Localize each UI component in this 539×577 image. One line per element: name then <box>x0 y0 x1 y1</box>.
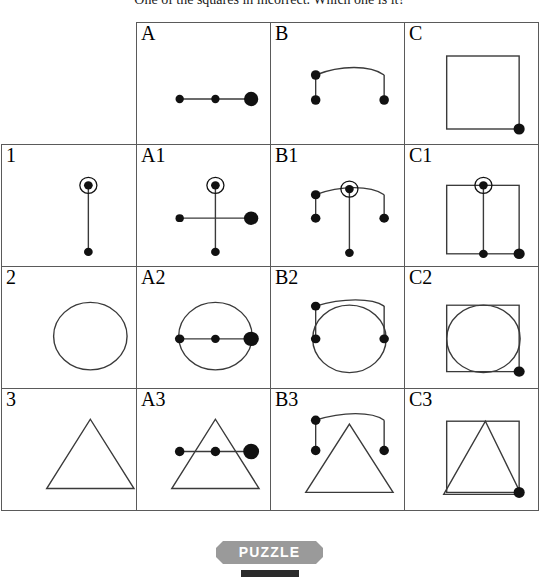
shape-triangle <box>2 389 136 510</box>
shape-triangle-with-arch <box>271 389 404 510</box>
shape-square-with-circle <box>405 267 538 388</box>
grid-cell-B3[interactable]: B3 <box>271 389 405 511</box>
puzzle-question: One of the squares in incorrect. Which o… <box>0 0 539 7</box>
puzzle-badge[interactable]: PUZZLE <box>216 541 323 564</box>
grid-cell-3[interactable]: 3 <box>2 389 137 511</box>
shape-square-with-vertical-stem <box>405 145 538 266</box>
shape-dotted-line-with-vertical-stem <box>137 145 270 266</box>
puzzle-grid: A B <box>1 22 539 511</box>
grid-cell-C2[interactable]: C2 <box>405 267 539 389</box>
grid-cell-A2[interactable]: A2 <box>137 267 271 389</box>
grid-cell-2[interactable]: 2 <box>2 267 137 389</box>
grid-cell-A1[interactable]: A1 <box>137 145 271 267</box>
grid-row-3: 3 A3 B3 <box>2 389 539 511</box>
shape-vertical-stem <box>2 145 136 266</box>
shape-dotted-line <box>137 23 270 144</box>
grid-cell-A3[interactable]: A3 <box>137 389 271 511</box>
shape-triangle-with-dotted-line <box>137 389 270 510</box>
shape-circle-with-arch <box>271 267 404 388</box>
grid-cell-C1[interactable]: C1 <box>405 145 539 267</box>
grid-cell-B1[interactable]: B1 <box>271 145 405 267</box>
shape-arch-with-vertical-stem <box>271 145 404 266</box>
grid-row-header: A B <box>2 23 539 145</box>
shape-square-with-corner-dot <box>405 23 538 144</box>
shape-circle <box>2 267 136 388</box>
shape-square-with-oversized-triangle <box>405 389 538 510</box>
grid-cell-C3[interactable]: C3 <box>405 389 539 511</box>
shape-circle-with-dotted-line <box>137 267 270 388</box>
grid-row-2: 2 A2 B2 <box>2 267 539 389</box>
grid-row-1: 1 A1 <box>2 145 539 267</box>
grid-cell-1[interactable]: 1 <box>2 145 137 267</box>
grid-cell-A[interactable]: A <box>137 23 271 145</box>
badge-shadow-bar <box>241 570 299 577</box>
puzzle-badge-container: PUZZLE <box>0 541 539 564</box>
shape-arch <box>271 23 404 144</box>
grid-cell-C[interactable]: C <box>405 23 539 145</box>
grid-cell-corner <box>2 23 137 145</box>
grid-cell-B[interactable]: B <box>271 23 405 145</box>
grid-cell-B2[interactable]: B2 <box>271 267 405 389</box>
